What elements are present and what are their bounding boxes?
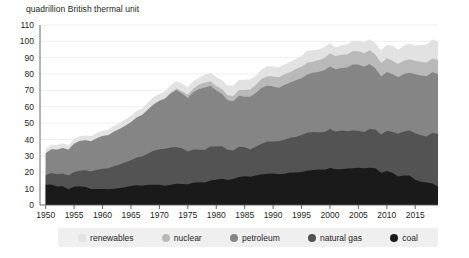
legend-swatch-icon (308, 234, 316, 242)
legend-label: renewables (90, 233, 133, 243)
legend-swatch-icon (78, 234, 86, 242)
x-tick-label: 2000 (321, 210, 340, 220)
y-tick-label: 80 (25, 69, 35, 79)
x-tick-label: 1960 (93, 210, 112, 220)
plot-area: 0102030405060708090100110 19501955196019… (0, 0, 469, 225)
legend-label: petroleum (242, 233, 280, 243)
x-axis-ticks: 1950195519601965197019751980198519901995… (36, 205, 425, 220)
chart-legend: renewablesnuclearpetroleumnatural gascoa… (58, 228, 438, 247)
y-tick-label: 10 (25, 184, 35, 194)
legend-item-petroleum[interactable]: petroleum (230, 233, 280, 243)
legend-label: coal (402, 233, 418, 243)
energy-consumption-chart: quadrillion British thermal unit 0102030… (0, 0, 469, 258)
x-tick-label: 1965 (122, 210, 141, 220)
y-tick-label: 90 (25, 53, 35, 63)
legend-item-natural-gas[interactable]: natural gas (308, 233, 362, 243)
y-tick-label: 30 (25, 151, 35, 161)
y-axis-ticks: 0102030405060708090100110 (20, 20, 34, 210)
x-tick-label: 1970 (150, 210, 169, 220)
y-tick-label: 50 (25, 118, 35, 128)
y-tick-label: 0 (29, 200, 34, 210)
legend-label: nuclear (174, 233, 202, 243)
legend-item-renewables[interactable]: renewables (78, 233, 133, 243)
x-tick-label: 1955 (65, 210, 84, 220)
x-tick-label: 1980 (207, 210, 226, 220)
x-tick-label: 1995 (292, 210, 311, 220)
x-tick-label: 2015 (406, 210, 425, 220)
legend-swatch-icon (390, 234, 398, 242)
legend-swatch-icon (162, 234, 170, 242)
legend-item-nuclear[interactable]: nuclear (162, 233, 202, 243)
y-tick-label: 100 (20, 36, 34, 46)
y-tick-label: 20 (25, 167, 35, 177)
x-tick-label: 2010 (377, 210, 396, 220)
y-tick-label: 70 (25, 85, 35, 95)
y-tick-label: 60 (25, 102, 35, 112)
x-tick-label: 1990 (264, 210, 283, 220)
x-tick-label: 1985 (235, 210, 254, 220)
legend-item-coal[interactable]: coal (390, 233, 418, 243)
x-tick-label: 2005 (349, 210, 368, 220)
y-tick-label: 40 (25, 135, 35, 145)
y-tick-label: 110 (20, 20, 34, 30)
legend-swatch-icon (230, 234, 238, 242)
legend-label: natural gas (320, 233, 362, 243)
stacked-areas (46, 39, 438, 205)
x-tick-label: 1975 (178, 210, 197, 220)
x-tick-label: 1950 (36, 210, 55, 220)
